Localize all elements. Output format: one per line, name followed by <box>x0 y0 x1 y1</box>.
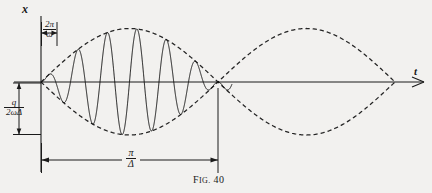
envelope-upper-dashed <box>41 29 395 83</box>
beat-oscillation-plot <box>0 0 432 193</box>
horizontal-axis-label: t <box>414 66 417 77</box>
annotation-carrier-period: 2π ω <box>43 20 56 39</box>
annotation-amplitude: q 2ωΔ <box>4 98 24 117</box>
caption-number: 40 <box>214 174 225 185</box>
carrier-period-denominator: ω <box>43 30 56 39</box>
amplitude-denominator: 2ωΔ <box>4 108 24 117</box>
measure-amp-arrow-top <box>17 83 22 89</box>
axes-group <box>14 16 424 172</box>
annotation-beat-length: π Δ <box>122 148 140 169</box>
vertical-axis-label: x <box>22 3 28 15</box>
figure-40: x t 2π ω q 2ωΔ π Δ FIG. 40 <box>0 0 432 193</box>
figure-caption: FIG. 40 <box>193 174 224 185</box>
measure-amp-arrow-bottom <box>17 129 22 135</box>
caption-ig: IG. <box>199 176 211 185</box>
measure-beat-arrow-right <box>211 157 219 162</box>
beat-length-denominator: Δ <box>126 159 136 169</box>
measure-beat-arrow-left <box>42 157 50 162</box>
